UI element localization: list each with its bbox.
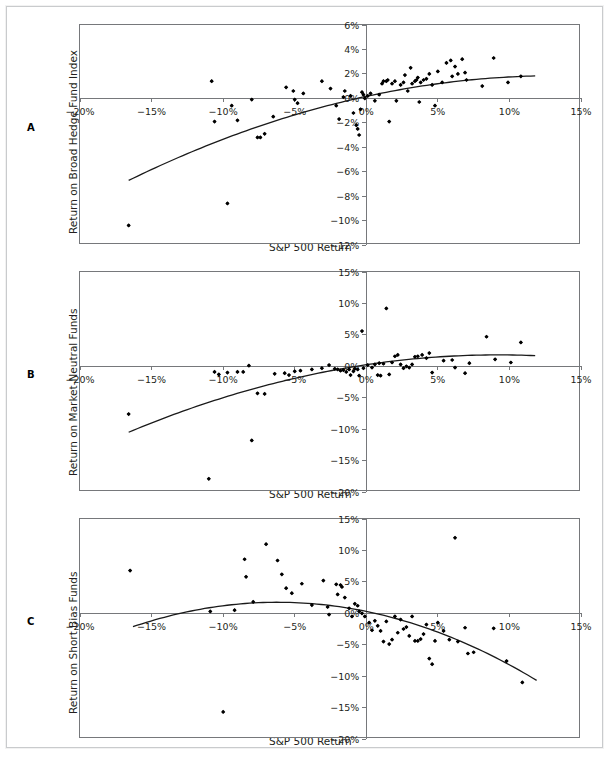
svg-text:15%: 15% [570, 621, 591, 632]
svg-text:−15%: −15% [137, 374, 166, 385]
panel-a-y-axis-title: Return on Broad Hedge Fund Index [67, 50, 79, 234]
panel-a-plot-box: −20%−15%−10%−5%0%5%10%15%−12%−10%−8%−6%−… [79, 24, 580, 244]
panel-b: B Return on Market-Neutral Funds S&P 500… [7, 254, 604, 504]
svg-text:−20%: −20% [65, 374, 94, 385]
svg-text:−20%: −20% [330, 734, 359, 745]
panel-a-scatter-plot: −20%−15%−10%−5%0%5%10%15%−12%−10%−8%−6%−… [80, 25, 581, 245]
panel-c-letter: C [27, 616, 35, 627]
svg-text:−5%: −5% [336, 392, 359, 403]
svg-text:−20%: −20% [65, 106, 94, 117]
svg-text:−20%: −20% [65, 621, 94, 632]
svg-text:4%: 4% [344, 44, 359, 55]
panel-a: A Return on Broad Hedge Fund Index S&P 5… [7, 7, 604, 257]
panel-a-letter: A [27, 122, 35, 133]
svg-text:10%: 10% [499, 621, 520, 632]
svg-text:−15%: −15% [137, 621, 166, 632]
svg-text:15%: 15% [570, 106, 591, 117]
panel-c: C Return on Short Bias Funds S&P 500 Ret… [7, 501, 604, 751]
svg-text:−10%: −10% [330, 424, 359, 435]
panel-b-scatter-plot: −20%−15%−10%−5%0%5%10%15%−20%−15%−10%−5%… [80, 272, 581, 492]
panel-b-letter: B [27, 369, 35, 380]
svg-text:−10%: −10% [330, 215, 359, 226]
figure-frame: A Return on Broad Hedge Fund Index S&P 5… [6, 6, 603, 748]
svg-text:15%: 15% [338, 514, 359, 525]
svg-text:5%: 5% [344, 576, 359, 587]
svg-text:−10%: −10% [209, 374, 238, 385]
svg-text:5%: 5% [344, 329, 359, 340]
svg-text:10%: 10% [499, 374, 520, 385]
panel-b-y-axis-title: Return on Market-Neutral Funds [67, 309, 79, 476]
panel-b-plot-box: −20%−15%−10%−5%0%5%10%15%−20%−15%−10%−5%… [79, 271, 580, 491]
svg-text:10%: 10% [499, 106, 520, 117]
svg-text:15%: 15% [338, 267, 359, 278]
svg-text:5%: 5% [430, 374, 445, 385]
svg-text:−15%: −15% [330, 702, 359, 713]
svg-text:10%: 10% [338, 545, 359, 556]
svg-text:−5%: −5% [283, 621, 306, 632]
svg-text:5%: 5% [430, 106, 445, 117]
svg-text:10%: 10% [338, 298, 359, 309]
svg-text:6%: 6% [344, 20, 359, 31]
svg-text:−6%: −6% [336, 166, 359, 177]
svg-text:−4%: −4% [336, 142, 359, 153]
panel-c-scatter-plot: −20%−15%−10%−5%0%5%10%15%−20%−15%−10%−5%… [80, 519, 581, 739]
svg-text:−15%: −15% [330, 455, 359, 466]
svg-text:−10%: −10% [209, 106, 238, 117]
svg-text:−15%: −15% [137, 106, 166, 117]
svg-text:−10%: −10% [209, 621, 238, 632]
svg-text:−8%: −8% [336, 191, 359, 202]
svg-text:−10%: −10% [330, 671, 359, 682]
svg-text:0%: 0% [359, 374, 374, 385]
svg-text:−12%: −12% [330, 240, 359, 251]
svg-text:2%: 2% [344, 68, 359, 79]
svg-text:−20%: −20% [330, 487, 359, 498]
svg-text:−5%: −5% [283, 106, 306, 117]
panel-c-plot-box: −20%−15%−10%−5%0%5%10%15%−20%−15%−10%−5%… [79, 518, 580, 738]
panel-c-y-axis-title: Return on Short Bias Funds [67, 572, 79, 714]
svg-text:15%: 15% [570, 374, 591, 385]
svg-text:−5%: −5% [336, 639, 359, 650]
